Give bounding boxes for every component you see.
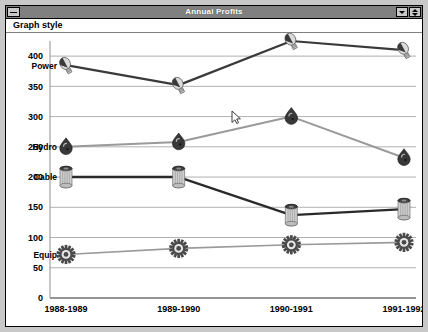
y-tick-label: 100 bbox=[28, 233, 43, 243]
y-tick-label: 50 bbox=[33, 263, 43, 273]
cable-spool-marker bbox=[398, 198, 410, 220]
series-line bbox=[66, 117, 404, 158]
cable-spool-marker bbox=[285, 204, 297, 226]
minimize-icon[interactable] bbox=[396, 7, 408, 17]
window-titlebar[interactable]: Annual Profits bbox=[6, 6, 422, 19]
application-window: Annual Profits Graph style bbox=[5, 5, 423, 327]
window-title: Annual Profits bbox=[6, 6, 422, 18]
chart-canvas: 050100150200250300350400 PowerHydroCable… bbox=[6, 33, 422, 326]
maximize-restore-icon[interactable] bbox=[409, 7, 421, 17]
grid-layer bbox=[50, 41, 416, 298]
lightbulb-marker bbox=[170, 75, 187, 95]
y-tick-label: 300 bbox=[28, 112, 43, 122]
menu-graph-style[interactable]: Graph style bbox=[11, 19, 65, 32]
mouse-pointer bbox=[232, 111, 240, 124]
window-controls bbox=[396, 7, 421, 17]
x-axis-tick-labels: 1988-19891989-19901990-19911991-1992 bbox=[44, 304, 422, 314]
mouse-pointer-icon bbox=[232, 111, 240, 124]
water-drop-marker bbox=[398, 149, 410, 166]
minimize-glyph bbox=[399, 11, 405, 14]
annual-profits-line-chart: 050100150200250300350400 PowerHydroCable… bbox=[6, 33, 422, 326]
series-label-hydro: Hydro bbox=[32, 142, 57, 152]
series-power bbox=[58, 33, 413, 95]
lightbulb-marker bbox=[396, 40, 413, 60]
y-tick-label: 350 bbox=[28, 82, 43, 92]
water-drop-marker bbox=[172, 133, 184, 150]
x-tick-label: 1988-1989 bbox=[44, 304, 87, 314]
series-cable bbox=[60, 166, 410, 226]
series-line bbox=[66, 242, 404, 254]
series-label-equip: Equip bbox=[33, 250, 57, 260]
series-layer bbox=[56, 33, 413, 264]
series-label-power: Power bbox=[31, 61, 57, 71]
y-tick-label: 0 bbox=[38, 293, 43, 303]
series-line bbox=[66, 177, 404, 215]
series-label-cable: Cable bbox=[34, 172, 57, 182]
x-tick-label: 1991-1992 bbox=[382, 304, 422, 314]
water-drop-marker bbox=[60, 138, 72, 155]
series-line bbox=[66, 41, 404, 85]
maximize-glyph bbox=[412, 9, 418, 16]
cable-spool-marker bbox=[60, 166, 72, 188]
app-root: Annual Profits Graph style bbox=[0, 0, 428, 332]
x-tick-label: 1989-1990 bbox=[157, 304, 200, 314]
menubar: Graph style bbox=[6, 19, 422, 33]
water-drop-marker bbox=[285, 108, 297, 125]
x-tick-label: 1990-1991 bbox=[270, 304, 313, 314]
y-tick-label: 150 bbox=[28, 202, 43, 212]
cable-spool-marker bbox=[173, 166, 185, 188]
